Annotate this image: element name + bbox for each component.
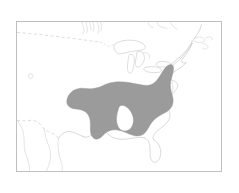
range-map-figure — [0, 0, 239, 193]
map-canvas — [0, 0, 239, 193]
lake-erie — [144, 67, 162, 73]
